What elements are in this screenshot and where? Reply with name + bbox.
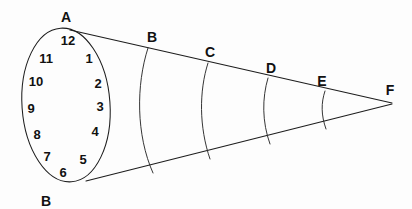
clock-number-12: 12 (61, 34, 75, 47)
cross-section-arc-b (140, 48, 153, 173)
clock-number-4: 4 (91, 125, 98, 138)
vertex-label-b: B (147, 30, 157, 44)
vertex-label-a: A (61, 10, 71, 24)
cone-figure: 12 1 2 3 4 5 6 7 8 9 10 11 A B C D E F B (0, 0, 412, 209)
cone-top-edge (70, 30, 392, 103)
clock-number-1: 1 (85, 52, 92, 65)
clock-number-5: 5 (79, 153, 86, 166)
clock-number-3: 3 (96, 100, 103, 113)
clock-number-10: 10 (29, 75, 43, 88)
vertex-label-e: E (317, 74, 326, 88)
clock-number-11: 11 (39, 52, 53, 65)
vertex-label-d: D (266, 61, 276, 75)
cross-section-arc-e (322, 91, 326, 129)
cross-section-arc-d (264, 78, 270, 144)
clock-number-7: 7 (43, 150, 50, 163)
clock-number-2: 2 (94, 77, 101, 90)
vertex-label-b-bottom: B (41, 194, 51, 208)
cross-section-arc-c (201, 63, 210, 159)
cone-bottom-edge (86, 104, 392, 181)
clock-number-9: 9 (27, 102, 34, 115)
vertex-label-f: F (386, 83, 395, 97)
clock-number-6: 6 (59, 166, 66, 179)
clock-number-8: 8 (33, 128, 40, 141)
vertex-label-c: C (205, 45, 215, 59)
